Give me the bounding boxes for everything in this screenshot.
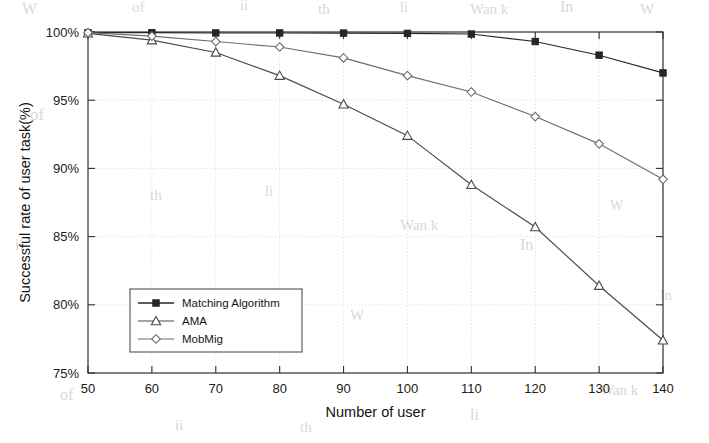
x-tick-label: 90 [336,381,350,396]
x-tick-label: 80 [272,381,286,396]
scan-artifact: Wan k [470,1,509,17]
scan-artifact: In [560,0,573,15]
success-rate-line-chart: WofiithliWan kInWofiithliWan kInWofiithl… [0,0,709,443]
legend-label: AMA [182,315,207,327]
data-point-marker [596,52,602,58]
legend-label: Matching Algorithm [182,297,280,309]
data-point-marker [213,30,219,36]
scan-artifact: of [132,0,145,15]
x-tick-label: 130 [588,381,610,396]
x-tick-label: 50 [81,381,95,396]
y-axis-title: Successful rate of user task(%) [17,102,33,303]
scan-artifact: of [60,386,74,403]
x-tick-label: 110 [461,381,482,396]
scan-artifact: W [22,0,38,17]
y-tick-label: 80% [53,297,79,312]
scan-artifact: W [640,1,655,17]
scan-artifact: th [318,1,330,17]
figure-container: WofiithliWan kInWofiithliWan kInWofiithl… [0,0,709,443]
legend-label: MobMig [182,333,223,345]
scan-artifact: li [400,0,408,15]
x-tick-label: 70 [209,381,223,396]
scan-artifact: In [520,236,533,253]
scan-artifact: W [610,198,624,213]
legend-marker [153,300,159,306]
y-tick-label: 75% [53,366,79,381]
scan-artifact: In [660,288,672,303]
data-point-marker [660,70,666,76]
data-point-marker [468,31,474,37]
data-point-marker [340,30,346,36]
x-tick-label: 60 [145,381,159,396]
data-point-marker [276,30,282,36]
x-tick-label: 100 [397,381,419,396]
x-tick-label: 120 [524,381,546,396]
scan-artifact: W [350,307,365,323]
data-point-marker [404,30,410,36]
scan-artifact: th [300,419,312,435]
chart-background [0,0,709,443]
scan-artifact: ii [240,0,248,13]
data-point-marker [532,38,538,44]
legend[interactable]: Matching AlgorithmAMAMobMig [130,289,302,352]
y-tick-label: 85% [53,229,79,244]
y-tick-label: 95% [53,93,79,108]
scan-artifact: li [265,184,273,199]
y-tick-label: 90% [53,161,79,176]
x-axis-title: Number of user [326,404,426,420]
scan-artifact: Wan k [400,217,439,233]
scan-artifact: li [470,406,479,423]
scan-artifact: ii [175,417,183,433]
y-tick-label: 100% [46,25,80,40]
x-tick-label: 140 [652,381,674,396]
